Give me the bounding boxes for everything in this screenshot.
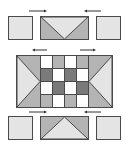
top-row bbox=[9, 10, 121, 40]
top-right-square bbox=[97, 17, 121, 40]
bottom-row bbox=[9, 111, 121, 140]
middle-row bbox=[17, 49, 113, 108]
checker-cell bbox=[77, 69, 89, 82]
checker-cell bbox=[41, 95, 53, 108]
checker-cell bbox=[53, 82, 65, 95]
checker-cell bbox=[53, 95, 65, 108]
arrow-right-icon bbox=[29, 10, 47, 13]
checker-cell bbox=[53, 56, 65, 69]
middle-left-panel bbox=[17, 56, 41, 108]
checker-cell bbox=[65, 82, 77, 95]
checker-cell bbox=[65, 56, 77, 69]
checker-cell bbox=[41, 69, 53, 82]
bottom-left-square bbox=[9, 117, 33, 140]
checker-cell bbox=[41, 82, 53, 95]
checker-cell bbox=[53, 69, 65, 82]
middle-right-panel bbox=[89, 56, 113, 108]
top-left-square bbox=[9, 17, 33, 40]
checker-cell bbox=[77, 95, 89, 108]
bottom-right-square bbox=[97, 117, 121, 140]
checkerboard bbox=[41, 56, 89, 108]
checker-cell bbox=[65, 69, 77, 82]
checker-cell bbox=[77, 56, 89, 69]
quilt-assembly-diagram bbox=[0, 0, 133, 151]
arrow-right-icon bbox=[29, 111, 47, 114]
arrow-right-icon bbox=[80, 49, 96, 52]
bottom-middle-block bbox=[41, 117, 89, 140]
arrow-left-icon bbox=[84, 111, 101, 114]
arrow-left-icon bbox=[32, 49, 47, 52]
checker-cell bbox=[65, 95, 77, 108]
top-middle-block bbox=[41, 17, 89, 40]
checker-cell bbox=[41, 56, 53, 69]
arrow-left-icon bbox=[84, 10, 101, 13]
checker-cell bbox=[77, 82, 89, 95]
